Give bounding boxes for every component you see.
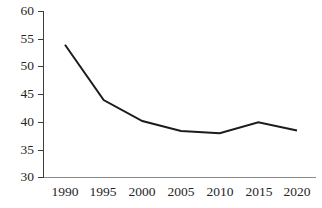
line-chart: 60 55 50 45 40 35 30 1990 1995 2000 2005…	[0, 0, 322, 208]
x-tick-label-1995: 1995	[90, 184, 117, 199]
x-tick-label-2005: 2005	[168, 184, 195, 199]
y-tick-label-60: 60	[21, 3, 35, 18]
chart-background	[0, 0, 322, 208]
y-tick-label-55: 55	[21, 31, 35, 46]
y-tick-label-40: 40	[21, 114, 35, 129]
x-tick-label-1990: 1990	[52, 184, 79, 199]
x-tick-label-2010: 2010	[207, 184, 234, 199]
x-tick-label-2015: 2015	[246, 184, 273, 199]
y-tick-label-50: 50	[21, 58, 35, 73]
y-tick-label-35: 35	[21, 142, 35, 157]
chart-canvas: 60 55 50 45 40 35 30 1990 1995 2000 2005…	[0, 0, 322, 208]
y-tick-label-45: 45	[21, 86, 35, 101]
x-tick-labels: 1990 1995 2000 2005 2010 2015 2020	[52, 184, 311, 199]
x-tick-label-2000: 2000	[129, 184, 156, 199]
x-tick-label-2020: 2020	[284, 184, 311, 199]
y-tick-label-30: 30	[21, 169, 35, 184]
